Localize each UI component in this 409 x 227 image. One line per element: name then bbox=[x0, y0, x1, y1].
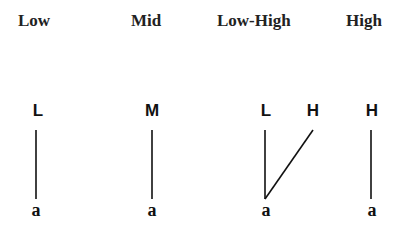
segment-low-a: a bbox=[32, 200, 41, 221]
segment-high-a: a bbox=[368, 200, 377, 221]
segment-mid-a: a bbox=[148, 200, 157, 221]
segment-lowhigh-a: a bbox=[262, 200, 271, 221]
association-line-lowhigh-H bbox=[265, 130, 313, 199]
association-lines bbox=[0, 0, 409, 227]
